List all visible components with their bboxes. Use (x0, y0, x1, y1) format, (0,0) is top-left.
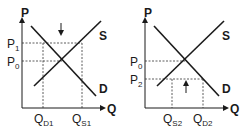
supply-label: S (222, 29, 230, 43)
right-chart: P Q S D P0 P2 QS2 QD2 (130, 6, 239, 128)
qty-qs1-label: QS1 (72, 112, 92, 128)
supply-curve (34, 21, 101, 86)
qty-qs2-label: QS2 (163, 112, 183, 128)
price-p0-label: P0 (7, 55, 20, 71)
supply-curve (157, 21, 224, 86)
demand-label: D (99, 82, 108, 96)
price-p0-label: P0 (130, 55, 143, 71)
supply-label: S (99, 29, 107, 43)
guide-lines (22, 43, 82, 108)
qty-qd1-label: QD1 (34, 112, 54, 128)
x-axis-label: Q (230, 102, 239, 116)
y-axis-label: P (21, 6, 29, 20)
price-p1-label: P1 (7, 37, 20, 53)
x-axis-label: Q (107, 102, 116, 116)
y-axis-label: P (144, 6, 152, 20)
price-p2-label: P2 (130, 73, 143, 89)
left-chart: P Q S D P1 P0 QD1 QS1 (7, 6, 116, 128)
supply-demand-diagrams: P Q S D P1 P0 QD1 QS1 P Q S D P0 P2 QS2 … (0, 0, 244, 128)
qty-qd2-label: QD2 (193, 112, 213, 128)
demand-label: D (222, 82, 231, 96)
guide-lines (145, 61, 203, 108)
